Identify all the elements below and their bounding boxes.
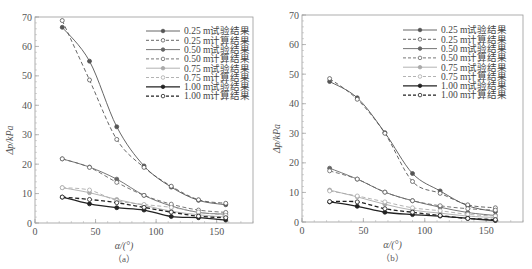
data-point <box>142 165 146 169</box>
data-point <box>88 197 92 201</box>
data-point <box>60 25 64 29</box>
data-point <box>115 201 119 205</box>
data-point <box>328 189 332 193</box>
x-tick-label: 0 <box>33 226 38 237</box>
data-point <box>466 216 470 220</box>
legend: 0.25 m试验结果0.25 m计算结果0.50 m试验结果0.50 m计算结果… <box>146 25 250 101</box>
y-tick-label: 40 <box>22 100 32 111</box>
data-point <box>383 131 387 135</box>
x-tick-label: 0 <box>300 225 305 236</box>
y-tick-label: 50 <box>289 69 299 80</box>
data-point <box>60 19 64 23</box>
y-tick-label: 0 <box>27 218 32 229</box>
y-tick-label: 10 <box>289 187 299 198</box>
x-tick-label: 50 <box>358 225 368 236</box>
data-point <box>60 195 64 199</box>
chart-a: 010203040506070050100150α/(°)Δp/kPa（a）0.… <box>4 12 253 265</box>
data-point <box>411 199 415 203</box>
x-tick-label: 100 <box>417 225 432 236</box>
data-point <box>355 177 359 181</box>
data-point <box>197 198 201 202</box>
data-point <box>169 215 173 219</box>
data-point <box>411 210 415 214</box>
data-point <box>142 205 146 209</box>
y-axis-title: Δp/kPa <box>271 124 282 154</box>
legend: 0.25 m试验结果0.25 m计算结果0.50 m试验结果0.50 m计算结果… <box>403 24 507 100</box>
data-point <box>142 193 146 197</box>
data-point <box>88 165 92 169</box>
data-point <box>383 190 387 194</box>
data-point <box>115 180 119 184</box>
y-tick-label: 20 <box>289 157 299 168</box>
data-point <box>115 125 119 129</box>
series <box>60 195 228 220</box>
data-point <box>115 137 119 141</box>
data-point <box>169 184 173 188</box>
data-point <box>438 204 442 208</box>
data-point <box>438 213 442 217</box>
y-tick-label: 60 <box>22 41 32 52</box>
y-axis-title: Δp/kPa <box>4 125 15 155</box>
figure-caption: （a） <box>113 254 135 264</box>
data-point <box>438 191 442 195</box>
legend-entry: 1.00 m计算结果 <box>184 90 250 101</box>
data-point <box>60 186 64 190</box>
chart-b: 010203040506070050100150α/(°)Δp/kPa（b）0.… <box>271 10 523 264</box>
y-tick-label: 20 <box>22 159 32 170</box>
data-point <box>355 204 359 208</box>
data-point <box>466 207 470 211</box>
data-point <box>60 157 64 161</box>
legend-entry: 1.00 m计算结果 <box>441 89 507 100</box>
data-point <box>438 209 442 213</box>
x-axis-title: α/(°) <box>383 239 402 251</box>
data-point <box>383 207 387 211</box>
data-point <box>493 218 497 222</box>
data-point <box>88 202 92 206</box>
figure-caption: （b） <box>381 253 404 263</box>
data-point <box>115 206 119 210</box>
data-point <box>493 208 497 212</box>
data-point <box>224 216 228 220</box>
y-tick-label: 60 <box>289 39 299 50</box>
y-tick-label: 10 <box>22 188 32 199</box>
data-point <box>355 194 359 198</box>
y-tick-label: 70 <box>22 12 32 23</box>
x-axis-title: α/(°) <box>115 240 134 252</box>
data-point <box>411 206 415 210</box>
data-point <box>411 179 415 183</box>
data-point <box>355 200 359 204</box>
figure: 010203040506070050100150α/(°)Δp/kPa（a）0.… <box>0 0 532 269</box>
data-point <box>197 214 201 218</box>
data-point <box>383 200 387 204</box>
data-point <box>169 205 173 209</box>
data-point <box>88 59 92 63</box>
x-tick-label: 150 <box>209 226 224 237</box>
y-tick-label: 0 <box>294 217 299 228</box>
data-point <box>355 97 359 101</box>
data-point <box>88 188 92 192</box>
x-tick-label: 150 <box>479 225 494 236</box>
y-tick-label: 50 <box>22 70 32 81</box>
data-point <box>224 201 228 205</box>
y-tick-label: 30 <box>22 129 32 140</box>
y-tick-label: 40 <box>289 98 299 109</box>
data-point <box>328 169 332 173</box>
data-point <box>328 77 332 81</box>
data-point <box>466 203 470 207</box>
y-tick-label: 70 <box>289 10 299 21</box>
x-tick-label: 50 <box>91 226 101 237</box>
data-point <box>411 172 415 176</box>
data-point <box>197 210 201 214</box>
data-point <box>88 78 92 82</box>
data-point <box>328 200 332 204</box>
data-point <box>169 210 173 214</box>
y-tick-label: 30 <box>289 128 299 139</box>
data-point <box>466 212 470 216</box>
x-tick-label: 100 <box>149 226 164 237</box>
